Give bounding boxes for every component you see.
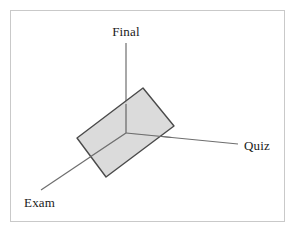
- three-dimensional-axes-diagram: Final Quiz Exam: [0, 0, 296, 233]
- figure-container: Final Quiz Exam: [0, 0, 296, 233]
- axis-label-exam: Exam: [24, 195, 55, 210]
- axis-label-quiz: Quiz: [244, 138, 270, 153]
- axis-label-final: Final: [112, 24, 140, 39]
